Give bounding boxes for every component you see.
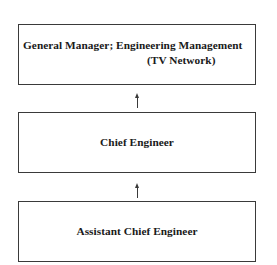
node-sublabel-tv-network: (TV Network)	[147, 54, 215, 66]
arrow-shaft	[137, 96, 138, 108]
node-label-general-manager: General Manager; Engineering Management	[23, 39, 242, 51]
arrow-up-icon	[135, 93, 140, 108]
node-general-manager: General Manager; Engineering Management …	[18, 24, 256, 85]
node-label-chief-engineer: Chief Engineer	[19, 136, 255, 148]
node-assistant-chief-engineer: Assistant Chief Engineer	[18, 201, 256, 262]
arrow-shaft	[137, 186, 138, 198]
arrow-up-icon	[135, 183, 140, 198]
node-label-assistant-chief-engineer: Assistant Chief Engineer	[19, 225, 255, 237]
node-chief-engineer: Chief Engineer	[18, 112, 256, 173]
